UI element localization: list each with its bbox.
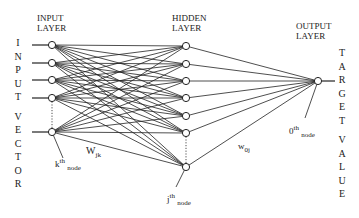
target-value-letter: E xyxy=(336,187,348,201)
o-node-label: 0th node xyxy=(289,123,315,140)
o-node-sub: node xyxy=(301,131,315,139)
weight-line-w0j xyxy=(186,81,318,98)
hidden-node xyxy=(182,112,189,119)
j-node-label: jth node xyxy=(167,191,191,208)
input-layer-title: INPUT LAYER xyxy=(37,13,66,33)
hidden-node xyxy=(182,94,189,101)
input-vector-letter: N xyxy=(12,50,24,64)
target-value-letter: L xyxy=(336,160,348,174)
target-value-letter: U xyxy=(336,174,348,188)
input-vector-letter: U xyxy=(12,77,24,91)
w-0j-sub: 0j xyxy=(245,146,250,154)
hidden-node xyxy=(182,42,189,49)
k-node-sup: th xyxy=(60,157,65,165)
input-layer-title-line1: INPUT xyxy=(37,13,66,23)
input-node xyxy=(48,76,55,83)
output-node xyxy=(314,77,321,84)
target-value-label: TARGET VALUE xyxy=(336,46,348,201)
input-vector-letter: V xyxy=(12,110,24,124)
weight-line-w0j xyxy=(186,81,318,116)
target-value-letter: T xyxy=(336,46,348,60)
weight-line-wjk xyxy=(52,132,186,133)
target-value-letter: E xyxy=(336,100,348,114)
output-layer-title: OUTPUT LAYER xyxy=(296,21,332,41)
target-value-letter: V xyxy=(336,133,348,147)
output-layer-title-line1: OUTPUT xyxy=(296,21,332,31)
input-vector-letter: C xyxy=(12,137,24,151)
hidden-layer-title-line2: LAYER xyxy=(172,23,207,33)
k-node-pointer xyxy=(52,132,63,158)
target-value-letter: R xyxy=(336,73,348,87)
input-vector-letter: T xyxy=(12,150,24,164)
hidden-node xyxy=(182,163,189,170)
target-value-letter: A xyxy=(336,60,348,74)
o-node-pointer xyxy=(305,81,318,118)
hidden-layer-title-line1: HIDDEN xyxy=(172,13,207,23)
input-vector-letter: E xyxy=(12,123,24,137)
input-node xyxy=(48,59,55,66)
input-node xyxy=(48,41,55,48)
weight-line-wjk xyxy=(52,98,186,116)
input-vector-letter: P xyxy=(12,63,24,77)
input-node xyxy=(48,128,55,135)
input-vector-letter: R xyxy=(12,177,24,191)
weight-line-w0j xyxy=(186,64,318,81)
hidden-node xyxy=(182,129,189,136)
weight-line-wjk xyxy=(52,45,186,46)
hidden-node xyxy=(182,77,189,84)
target-value-letter: T xyxy=(336,114,348,128)
input-vector-label: INPUT VECTOR xyxy=(12,36,24,191)
k-node-sub: node xyxy=(67,164,81,172)
weight-line-wjk xyxy=(52,46,186,63)
w-0j-label: w0j xyxy=(238,141,250,155)
input-node xyxy=(48,94,55,101)
target-value-letter: A xyxy=(336,147,348,161)
hidden-node xyxy=(182,60,189,67)
input-vector-letter: T xyxy=(12,90,24,104)
weight-line-w0j xyxy=(186,46,318,81)
o-node-sup: th xyxy=(294,124,299,132)
w-jk-sub: jk xyxy=(95,151,100,159)
k-node-label: kth node xyxy=(55,156,81,173)
input-vector-letter: I xyxy=(12,36,24,50)
j-node-sup: th xyxy=(170,192,175,200)
w-jk-label: Wjk xyxy=(86,146,101,160)
j-node-sub: node xyxy=(177,199,191,207)
target-value-letter: G xyxy=(336,87,348,101)
output-layer-title-line2: LAYER xyxy=(296,31,332,41)
hidden-layer-title: HIDDEN LAYER xyxy=(172,13,207,33)
input-vector-letter: O xyxy=(12,164,24,178)
input-layer-title-line2: LAYER xyxy=(37,23,66,33)
